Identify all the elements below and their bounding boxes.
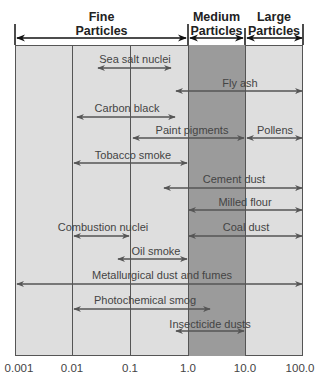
metallurgical-label: Metallurgical dust and fumes [92, 269, 232, 281]
pollens-label: Pollens [257, 124, 293, 136]
carbon-black-label: Carbon black [95, 102, 160, 114]
photochemical-smog-label: Photochemical smog [94, 294, 196, 306]
oil-smoke-label: Oil smoke [132, 245, 181, 257]
fly-ash-label: Fly ash [222, 77, 257, 89]
coal-dust-label: Coal dust [223, 221, 269, 233]
tick-100.0: 100.0 [286, 362, 315, 374]
cropped-axis-label [0, 377, 320, 381]
tick-0.001: 0.001 [5, 362, 34, 374]
paint-pigments-label: Paint pigments [156, 124, 229, 136]
tick-10.0: 10.0 [234, 362, 256, 374]
insecticide-dusts-label: Insecticide dusts [169, 318, 250, 330]
tick-0.01: 0.01 [61, 362, 83, 374]
milled-flour-label: Milled flour [218, 196, 271, 208]
tick-1.0: 1.0 [180, 362, 196, 374]
cement-dust-label: Cement dust [203, 173, 265, 185]
sea-salt-label: Sea salt nuclei [99, 53, 171, 65]
tick-0.1: 0.1 [122, 362, 138, 374]
tobacco-smoke-label: Tobacco smoke [95, 149, 171, 161]
combustion-nuclei-label: Combustion nuclei [58, 221, 149, 233]
